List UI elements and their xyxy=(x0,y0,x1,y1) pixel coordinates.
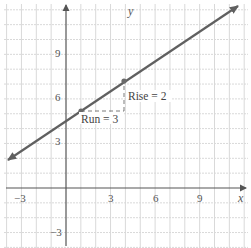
run-annotation: Run = 3 xyxy=(81,113,118,125)
x-axis-label: x xyxy=(237,191,244,205)
y-tick-label: 9 xyxy=(55,47,61,59)
y-tick-label: −3 xyxy=(50,226,62,238)
rise-annotation: Rise = 2 xyxy=(128,90,167,102)
coordinate-plane-chart: x y −3 3 6 9 9 6 3 −3 Run = 3 Rise = 2 xyxy=(0,0,251,248)
x-tick-label: −3 xyxy=(14,192,26,204)
y-axis-label: y xyxy=(127,4,134,18)
data-point-4-7 xyxy=(121,78,126,83)
grid xyxy=(4,4,248,248)
x-tick-label: 9 xyxy=(197,192,203,204)
x-tick-label: 6 xyxy=(153,192,159,204)
y-tick-label: 6 xyxy=(55,91,61,103)
x-tick-label: 3 xyxy=(108,192,114,204)
y-tick-label: 3 xyxy=(55,135,61,147)
